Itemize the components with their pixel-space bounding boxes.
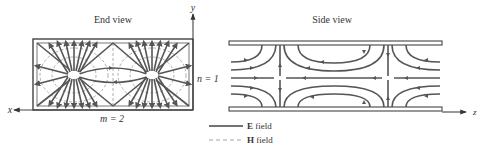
y-axis-label: y bbox=[190, 2, 196, 13]
m-index-label: m = 2 bbox=[100, 113, 124, 124]
legend-e-field-label: E field bbox=[247, 121, 272, 131]
side-view: Side view bbox=[229, 14, 477, 117]
end-view: End view bbox=[7, 2, 219, 124]
e-field-lines-side bbox=[231, 45, 440, 107]
z-axis-label: z bbox=[472, 107, 477, 117]
bottom-plate bbox=[229, 107, 442, 111]
n-index-label: n = 1 bbox=[197, 73, 219, 84]
legend-h-field-label: H field bbox=[247, 135, 273, 145]
end-view-title: End view bbox=[94, 14, 133, 25]
waveguide-mode-diagram: End view bbox=[0, 0, 485, 153]
top-plate bbox=[229, 41, 442, 45]
x-axis-label: x bbox=[7, 104, 13, 115]
legend: E field H field bbox=[209, 121, 273, 145]
side-view-title: Side view bbox=[312, 14, 352, 25]
